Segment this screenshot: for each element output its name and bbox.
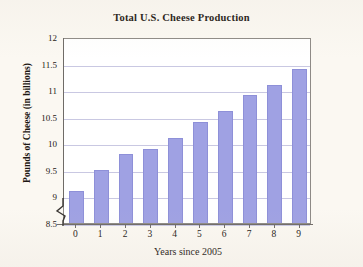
bar xyxy=(218,111,233,223)
y-tick-label: 10 xyxy=(17,139,57,149)
x-axis-line xyxy=(57,224,313,225)
bar xyxy=(143,149,158,223)
x-axis-title: Years since 2005 xyxy=(58,246,318,257)
y-tick-label: 11.5 xyxy=(17,60,57,70)
x-tick-label: 6 xyxy=(212,229,236,239)
bar xyxy=(193,122,208,223)
x-tick-label: 2 xyxy=(113,229,137,239)
x-tick-label: 5 xyxy=(187,229,211,239)
x-tick-label: 0 xyxy=(63,229,87,239)
chart-figure: Total U.S. Cheese Production Pounds of C… xyxy=(0,0,363,267)
y-tick-label: 12 xyxy=(17,33,57,43)
y-tick-label: 9.5 xyxy=(17,166,57,176)
bar xyxy=(292,69,307,223)
bar xyxy=(267,85,282,223)
bar xyxy=(168,138,183,223)
x-tick-label: 3 xyxy=(138,229,162,239)
y-tick-label: 8.5 xyxy=(17,219,57,229)
bar xyxy=(119,154,134,223)
x-tick-label: 7 xyxy=(237,229,261,239)
y-tick-label: 11 xyxy=(17,86,57,96)
bar xyxy=(69,191,84,223)
plot-area xyxy=(63,38,311,224)
gridline xyxy=(64,66,310,67)
x-tick-label: 4 xyxy=(163,229,187,239)
bar xyxy=(94,170,109,223)
x-tick-label: 8 xyxy=(262,229,286,239)
y-axis-line xyxy=(63,38,64,199)
y-tick-label: 10.5 xyxy=(17,113,57,123)
y-tick-label: 9 xyxy=(17,192,57,202)
axis-break-icon xyxy=(54,196,68,226)
x-tick-label: 1 xyxy=(88,229,112,239)
bar xyxy=(243,95,258,223)
chart-title: Total U.S. Cheese Production xyxy=(0,12,363,23)
x-tick-label: 9 xyxy=(287,229,311,239)
